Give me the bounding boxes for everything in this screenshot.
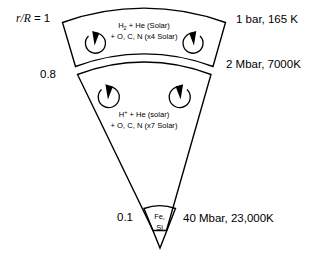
wedge-graphic: H2 + He (Solar) + O, C, N (x4 Solar) H+ … [0, 0, 325, 256]
interior-structure-diagram: H2 + He (Solar) + O, C, N (x4 Solar) H+ … [0, 0, 325, 256]
circular-arrow-icon [176, 84, 184, 99]
core-wedge: Fe, Si [144, 206, 176, 248]
circular-arrow-icon [105, 84, 113, 99]
core-label-line2: Si [156, 223, 163, 232]
convection-cell-outer-left [85, 31, 105, 53]
radius-label-middle: 0.8 [40, 68, 56, 80]
convection-cell-outer-right [183, 31, 203, 53]
outer-layer-composition-line2: + O, C, N (x4 Solar) [111, 32, 178, 41]
boundary-label-middle: 2 Mbar, 7000K [226, 58, 301, 70]
layer-molecular-envelope: H2 + He (Solar) + O, C, N (x4 Solar) [63, 8, 226, 66]
circular-arrow-icon [92, 31, 99, 46]
inner-layer-composition-line2: + O, C, N (x7 Solar) [111, 121, 178, 130]
boundary-label-top: 1 bar, 165 K [236, 13, 298, 25]
inner-layer-composition-line1: H+ + He (solar) [119, 109, 170, 119]
radius-label-outer: r/R = 1 [16, 12, 50, 24]
core-label-line1: Fe, [154, 212, 165, 221]
inner-layer-outline [78, 62, 212, 231]
convection-cell-inner-right [169, 84, 190, 107]
boundary-label-bottom: 40 Mbar, 23,000K [183, 212, 274, 224]
radius-label-core: 0.1 [117, 211, 133, 223]
convection-cell-inner-left [98, 84, 119, 107]
outer-layer-composition-line1: H2 + He (Solar) [118, 21, 170, 31]
layer-metallic-hydrogen: H+ + He (solar) + O, C, N (x7 Solar) [78, 62, 212, 231]
circular-arrow-icon [189, 31, 196, 46]
